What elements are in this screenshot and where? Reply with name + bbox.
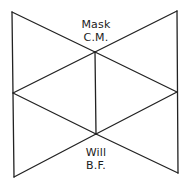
bottom-label-line1: Will xyxy=(76,146,116,159)
diag-midleft-to-centerbottom xyxy=(13,93,96,134)
diag-midright-to-centerbottom xyxy=(96,92,177,134)
left-edge xyxy=(12,12,14,177)
top-label-line2: C.M. xyxy=(76,31,116,44)
center-vertical xyxy=(95,52,96,134)
diag-centertop-to-midright xyxy=(95,52,177,92)
top-label-line1: Mask xyxy=(76,18,116,31)
bottom-label-line2: B.F. xyxy=(76,159,116,172)
diag-centertop-to-midleft xyxy=(13,52,95,93)
